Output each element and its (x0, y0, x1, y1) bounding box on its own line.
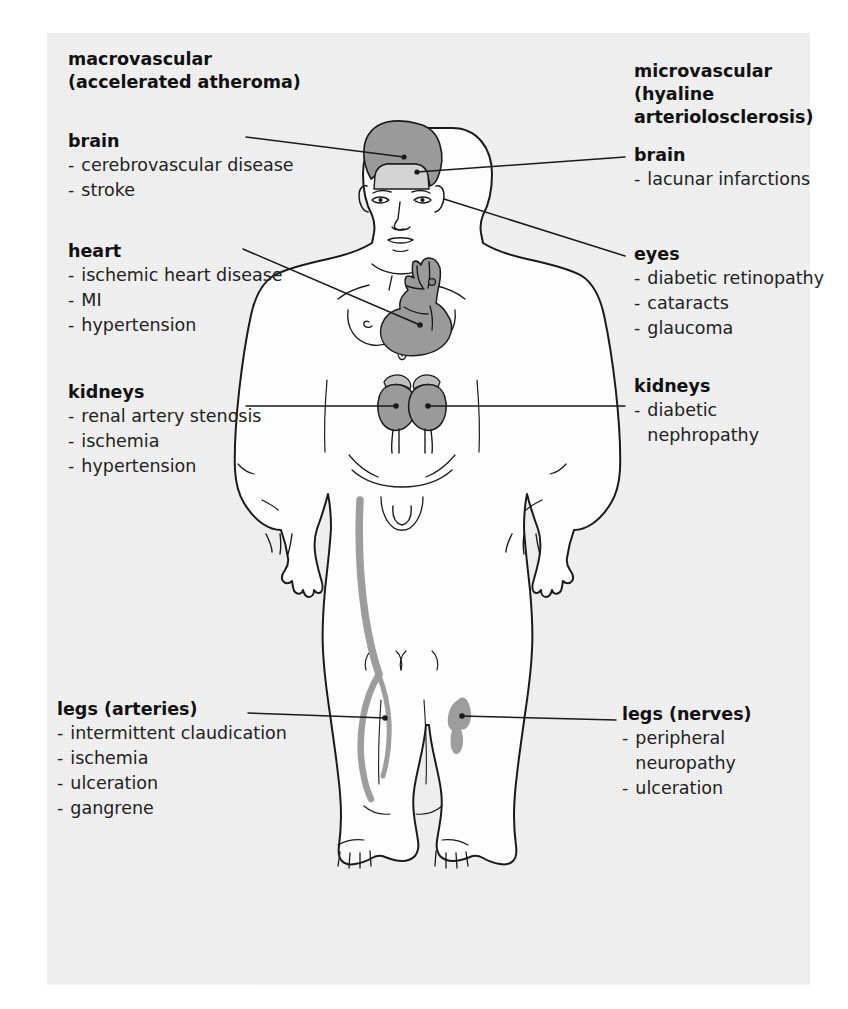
list-item: - stroke (68, 178, 294, 203)
list-item: - renal artery stenosis (68, 404, 261, 429)
list-item: - cerebrovascular disease (68, 153, 294, 178)
list-item: - peripheral neuropathy (622, 726, 752, 776)
section-heading: legs (nerves) (622, 703, 752, 726)
section-heading: brain (634, 144, 810, 167)
section-heading: eyes (634, 243, 824, 266)
list-item-text: ischemia (81, 429, 261, 454)
section-heading: legs (arteries) (57, 698, 287, 721)
list-item-text: renal artery stenosis (81, 404, 261, 429)
list-item-text: ulceration (635, 776, 751, 801)
bullet-dash: - (68, 313, 74, 338)
list-item-text: cataracts (647, 291, 824, 316)
bullet-dash: - (68, 429, 74, 454)
bullet-dash: - (68, 178, 74, 203)
list-item-text: stroke (81, 178, 293, 203)
section-list: - lacunar infarctions (634, 167, 810, 192)
list-item-text: ischemic heart disease (81, 263, 282, 288)
section-list: - ischemic heart disease - MI - hyperten… (68, 263, 283, 338)
list-item: - lacunar infarctions (634, 167, 810, 192)
list-item-text: gangrene (70, 796, 287, 821)
list-item: - MI (68, 288, 283, 313)
list-item: - hypertension (68, 454, 261, 479)
list-item-text: MI (81, 288, 282, 313)
section-list: - diabetic nephropathy (634, 398, 759, 448)
bullet-dash: - (57, 771, 63, 796)
list-item-text: lacunar infarctions (647, 167, 810, 192)
section-list: - diabetic retinopathy - cataracts - gla… (634, 266, 824, 341)
bullet-dash: - (634, 167, 640, 192)
body-outline (235, 128, 621, 864)
section-heading: kidneys (634, 375, 759, 398)
bullet-dash: - (622, 726, 628, 776)
bullet-dash: - (57, 796, 63, 821)
section-list: - renal artery stenosis - ischemia - hyp… (68, 404, 261, 479)
section-macrovascular-brain: brain - cerebrovascular disease - stroke (68, 130, 294, 203)
bullet-dash: - (622, 776, 628, 801)
list-item-text: intermittent claudication (70, 721, 287, 746)
section-microvascular-kidneys: kidneys - diabetic nephropathy (634, 375, 759, 448)
section-heading: brain (68, 130, 294, 153)
bullet-dash: - (634, 266, 640, 291)
list-item-text: cerebrovascular disease (81, 153, 293, 178)
bullet-dash: - (634, 291, 640, 316)
section-microvascular-brain: brain - lacunar infarctions (634, 144, 810, 192)
list-item-text: diabetic nephropathy (647, 398, 759, 448)
bullet-dash: - (634, 316, 640, 341)
bullet-dash: - (68, 288, 74, 313)
list-item: - ischemic heart disease (68, 263, 283, 288)
section-list: - peripheral neuropathy - ulceration (622, 726, 752, 801)
list-item-text: ulceration (70, 771, 287, 796)
section-macrovascular-heart: heart - ischemic heart disease - MI - hy… (68, 240, 283, 338)
list-item: - ulceration (622, 776, 752, 801)
list-item-text: glaucoma (647, 316, 824, 341)
list-item: - ischemia (57, 746, 287, 771)
bullet-dash: - (57, 721, 63, 746)
column-title-microvascular: microvascular (hyaline arteriolosclerosi… (634, 60, 814, 129)
section-heading: heart (68, 240, 283, 263)
list-item: - diabetic retinopathy (634, 266, 824, 291)
section-list: - cerebrovascular disease - stroke (68, 153, 294, 203)
bullet-dash: - (68, 404, 74, 429)
list-item: - cataracts (634, 291, 824, 316)
list-item-text: diabetic retinopathy (647, 266, 824, 291)
list-item: - ischemia (68, 429, 261, 454)
bullet-dash: - (68, 454, 74, 479)
bullet-dash: - (68, 153, 74, 178)
section-microvascular-legs: legs (nerves) - peripheral neuropathy - … (622, 703, 752, 801)
list-item-text: hypertension (81, 313, 282, 338)
section-list: - intermittent claudication - ischemia -… (57, 721, 287, 821)
section-macrovascular-kidneys: kidneys - renal artery stenosis - ischem… (68, 381, 261, 479)
list-item-text: ischemia (70, 746, 287, 771)
list-item: - diabetic nephropathy (634, 398, 759, 448)
section-macrovascular-legs: legs (arteries) - intermittent claudicat… (57, 698, 287, 821)
section-microvascular-eyes: eyes - diabetic retinopathy - cataracts … (634, 243, 824, 341)
list-item: - glaucoma (634, 316, 824, 341)
column-title-macrovascular: macrovascular (accelerated atheroma) (68, 48, 301, 94)
list-item-text: hypertension (81, 454, 261, 479)
bullet-dash: - (634, 398, 640, 448)
section-heading: kidneys (68, 381, 261, 404)
bullet-dash: - (57, 746, 63, 771)
list-item: - ulceration (57, 771, 287, 796)
list-item: - hypertension (68, 313, 283, 338)
list-item-text: peripheral neuropathy (635, 726, 751, 776)
list-item: - intermittent claudication (57, 721, 287, 746)
bullet-dash: - (68, 263, 74, 288)
list-item: - gangrene (57, 796, 287, 821)
